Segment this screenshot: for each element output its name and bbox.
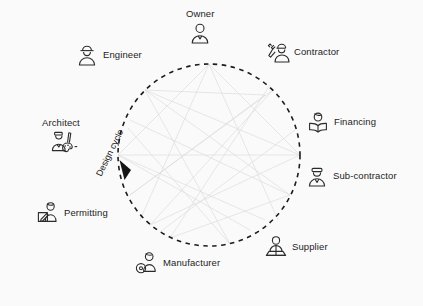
node-permitting[interactable]: Permitting [35, 200, 108, 226]
node-manufacturer[interactable]: Manufacturer [134, 250, 220, 276]
node-financing[interactable]: Financing [305, 109, 376, 135]
node-label-contractor: Contractor [294, 47, 339, 57]
person-wrench-icon [265, 39, 291, 65]
person-counter-icon [263, 234, 289, 260]
node-label-architect: Architect [42, 118, 80, 128]
node-contractor[interactable]: Contractor [265, 39, 339, 65]
node-label-permitting: Permitting [64, 208, 108, 218]
node-label-engineer: Engineer [103, 50, 142, 60]
person-gear-icon [134, 250, 160, 276]
person-bust-icon [187, 20, 213, 46]
node-owner[interactable]: Owner [186, 9, 214, 46]
node-label-financing: Financing [334, 117, 376, 127]
person-document-icon [35, 200, 61, 226]
diagram-canvas: Design cycle Owner Engineer [0, 0, 423, 306]
node-label-supplier: Supplier [292, 242, 328, 252]
person-palette-icon [48, 129, 74, 155]
person-hardhat-icon [74, 42, 100, 68]
node-architect[interactable]: Architect [42, 118, 80, 155]
node-label-owner: Owner [186, 9, 214, 19]
person-book-icon [305, 109, 331, 135]
node-label-manufacturer: Manufacturer [163, 258, 220, 268]
person-cap-icon [304, 163, 330, 189]
node-supplier[interactable]: Supplier [263, 234, 328, 260]
node-engineer[interactable]: Engineer [74, 42, 142, 68]
node-label-sub-contractor: Sub-contractor [333, 171, 397, 181]
node-sub-contractor[interactable]: Sub-contractor [304, 163, 397, 189]
